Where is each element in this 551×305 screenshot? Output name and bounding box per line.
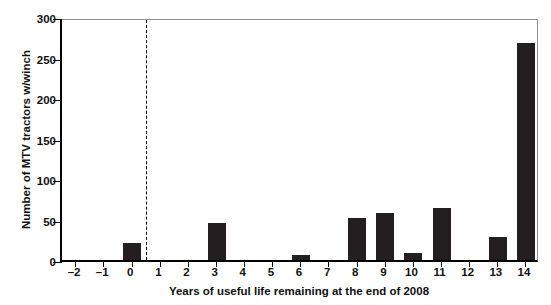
bar-11 (433, 208, 451, 260)
bar-9 (376, 213, 394, 260)
x-axis-tick-label-4: 4 (240, 266, 246, 278)
x-axis-title: Years of useful life remaining at the en… (60, 285, 538, 297)
x-axis-tick-label-5: 5 (268, 266, 274, 278)
y-axis-tick-label-150: 150 (26, 135, 56, 147)
x-axis-tick-label-14: 14 (518, 266, 531, 278)
x-axis-tick-label-1: 1 (155, 266, 161, 278)
vertical-dashed-divider (146, 20, 147, 260)
x-axis-tick-label-11: 11 (433, 266, 445, 278)
x-axis-tick-label-7: 7 (324, 266, 330, 278)
x-axis-tick-label-9: 9 (380, 266, 386, 278)
x-axis-tick-label-12: 12 (461, 266, 474, 278)
x-axis-tick-label-0: 0 (127, 266, 133, 278)
y-axis-tick-label-100: 100 (26, 175, 56, 187)
y-axis-tick-100 (53, 181, 62, 182)
y-axis-tick-label-250: 250 (26, 54, 56, 66)
y-axis-tick-label-200: 200 (26, 94, 56, 106)
y-axis-tick-150 (53, 141, 62, 142)
bar-10 (404, 253, 422, 260)
plot-frame (60, 19, 538, 262)
x-axis-tick-label-8: 8 (352, 266, 358, 278)
x-axis-tick-label-6: 6 (296, 266, 302, 278)
bar-6 (292, 255, 310, 260)
plot-area (62, 20, 537, 260)
x-axis-tick-label-10: 10 (405, 266, 418, 278)
y-axis-tick-labels: 050100150200250300 (26, 0, 56, 305)
bar-3 (208, 223, 226, 260)
bar-13 (489, 237, 507, 260)
y-axis-tick-label-300: 300 (26, 13, 56, 25)
x-axis-tick-label--1: –1 (96, 266, 109, 278)
x-axis-tick-label-3: 3 (211, 266, 217, 278)
x-axis-tick-label--2: –2 (68, 266, 81, 278)
y-axis-tick-250 (53, 60, 62, 61)
x-axis-tick-label-13: 13 (489, 266, 502, 278)
y-axis-tick-label-50: 50 (26, 216, 56, 228)
bar-14 (517, 43, 535, 260)
bar-8 (348, 218, 366, 260)
y-axis-tick-50 (53, 222, 62, 223)
x-axis-tick-label-2: 2 (183, 266, 189, 278)
y-axis-tick-0 (53, 262, 62, 263)
y-axis-tick-200 (53, 100, 62, 101)
y-axis-tick-label-0: 0 (26, 256, 56, 268)
chart-figure: Number of MTV tractors w/winch 050100150… (0, 0, 551, 305)
y-axis-tick-300 (53, 19, 62, 20)
bar-0 (123, 243, 141, 260)
